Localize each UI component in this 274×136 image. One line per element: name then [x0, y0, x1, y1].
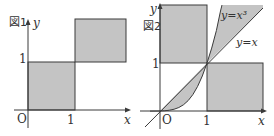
- fig1-y-tick-label: 1: [19, 52, 27, 66]
- fig2-shaded-upper-left: [160, 5, 207, 63]
- fig1-caption: 図1: [9, 16, 27, 29]
- fig2-x-tick-label: 1: [203, 114, 211, 128]
- fig2-origin-label: O: [162, 113, 172, 127]
- fig2-x-axis-arrow-icon: [261, 109, 267, 114]
- fig2-curve-label: y=x³: [220, 9, 247, 22]
- fig1-x-axis-label: x: [124, 113, 131, 127]
- fig1-x-axis-arrow-icon: [125, 108, 131, 113]
- fig2-x-axis-label: x: [258, 114, 265, 128]
- fig2-line-label: y=x: [235, 36, 258, 49]
- figure-1: 図1 y 1 O 1 x: [9, 16, 131, 128]
- fig1-y-axis-label: y: [32, 16, 40, 30]
- fig2-y-tick-label: 1: [152, 57, 160, 71]
- diagram-canvas: 図1 y 1 O 1 x y 図2 y=x³ y=x 1 O 1 x: [0, 0, 274, 136]
- fig1-origin-label: O: [17, 112, 27, 126]
- fig2-y-axis-label: y: [149, 2, 157, 16]
- fig1-x-tick-label: 1: [67, 113, 75, 127]
- fig2-shaded-lens-0-1: [160, 63, 207, 111]
- figure-2: y 図2 y=x³ y=x 1 O 1 x: [140, 2, 267, 129]
- fig1-shaded-lower-square: [28, 62, 75, 110]
- fig1-shaded-upper-square: [75, 19, 126, 62]
- fig2-caption: 図2: [143, 20, 161, 33]
- fig2-shaded-lower-right: [207, 63, 263, 111]
